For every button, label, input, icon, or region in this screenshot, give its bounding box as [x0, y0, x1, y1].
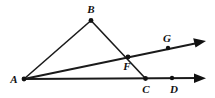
point-G-dot: [166, 46, 170, 50]
point-label-B: B: [86, 3, 94, 15]
figure-background: [0, 0, 215, 98]
point-D-dot: [170, 76, 174, 80]
ray-AD: [24, 78, 201, 79]
point-F-dot: [126, 55, 131, 60]
point-A-dot: [22, 77, 27, 82]
geometry-figure: A B F G C D: [0, 0, 215, 98]
point-label-F: F: [122, 60, 131, 72]
point-label-A: A: [9, 73, 17, 85]
geometry-canvas: A B F G C D: [0, 0, 215, 98]
point-C-dot: [143, 76, 148, 81]
point-B-dot: [89, 18, 94, 23]
point-label-D: D: [169, 83, 178, 95]
point-label-G: G: [163, 32, 171, 44]
point-label-C: C: [142, 83, 150, 95]
